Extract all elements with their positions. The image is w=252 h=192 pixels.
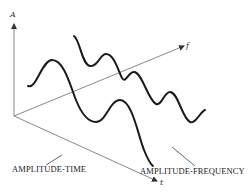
frequency-axis (14, 46, 184, 116)
amplitude-axis-label: A (9, 10, 16, 19)
frequency-caption-pointer (172, 147, 195, 166)
frequency-axis-label: f (185, 41, 191, 50)
amplitude-time-frequency-diagram: A f t AMPLITUDE-TIME AMPLITUDE-FREQUENCY (0, 0, 252, 192)
amplitude-time-caption: AMPLITUDE-TIME (12, 164, 86, 174)
amplitude-time-waveform (28, 60, 153, 166)
time-axis-label: t (160, 178, 164, 187)
amplitude-frequency-caption: AMPLITUDE-FREQUENCY (140, 166, 245, 176)
